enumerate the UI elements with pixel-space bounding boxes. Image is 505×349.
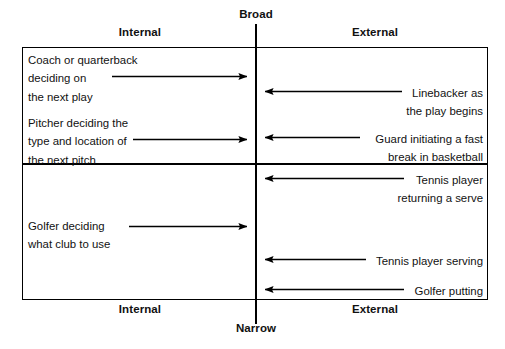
- quadrant-bottom-right-item-3: Golfer putting: [293, 282, 483, 300]
- quadrant-bottom-left-item-1: Golfer deciding what club to use: [28, 217, 218, 254]
- column-footer-external: External: [325, 303, 425, 315]
- column-header-internal: Internal: [90, 26, 190, 38]
- quadrant-top-left-item-2: Pitcher deciding the type and location o…: [28, 114, 218, 169]
- quadrant-bottom-right-item-1: Tennis player returning a serve: [293, 171, 483, 208]
- column-footer-internal: Internal: [90, 303, 190, 315]
- quadrant-top-left-item-1: Coach or quarterback deciding on the nex…: [28, 51, 218, 106]
- matrix-vertical-axis-line: [255, 24, 257, 324]
- quadrant-top-right-item-1: Linebacker as the play begins: [293, 84, 483, 121]
- quadrant-top-right-item-2: Guard initiating a fast break in basketb…: [293, 130, 483, 167]
- axis-label-broad: Broad: [206, 8, 306, 20]
- attention-focus-matrix-diagram: Broad Narrow Internal External Internal …: [0, 0, 505, 349]
- quadrant-bottom-right-item-2: Tennis player serving: [293, 252, 483, 270]
- column-header-external: External: [325, 26, 425, 38]
